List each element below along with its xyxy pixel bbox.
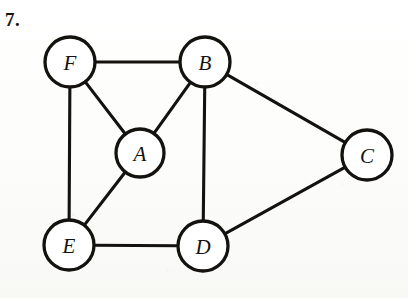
graph-edge-A-B — [153, 81, 191, 134]
graph-node-label-F: F — [63, 51, 77, 75]
graph-node-label-D: D — [194, 235, 210, 259]
graph-edge-B-C — [226, 74, 347, 143]
graph-node-label-B: B — [199, 51, 212, 75]
graph-edge-E-D — [93, 245, 179, 246]
graph-diagram: FBACED — [0, 0, 408, 298]
graph-node-layer: FBACED — [44, 37, 392, 271]
graph-edge-B-D — [203, 86, 204, 222]
graph-node-label-E: E — [62, 234, 76, 258]
graph-node-B[interactable]: B — [180, 37, 230, 87]
figure-page: 7. FBACED — [0, 0, 408, 298]
graph-edge-F-E — [69, 86, 70, 221]
graph-node-D[interactable]: D — [178, 221, 228, 271]
graph-node-label-A: A — [132, 142, 147, 166]
graph-edge-A-E — [84, 171, 127, 226]
graph-node-label-C: C — [360, 144, 375, 168]
graph-edge-F-A — [85, 81, 127, 135]
graph-edge-layer — [69, 62, 346, 246]
graph-node-A[interactable]: A — [116, 129, 164, 177]
graph-node-F[interactable]: F — [45, 37, 95, 87]
graph-node-C[interactable]: C — [342, 130, 392, 180]
graph-edge-D-C — [224, 167, 346, 235]
graph-node-E[interactable]: E — [44, 220, 94, 270]
